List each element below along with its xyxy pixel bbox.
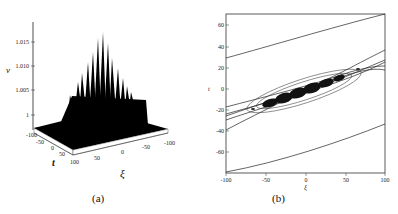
surface-plot-svg: 1.015 1.010 1.005 1 v <box>0 0 200 214</box>
y-tick-label: 20 <box>218 65 224 71</box>
y-tick-label: -60 <box>216 149 224 155</box>
x-tick-label: -100 <box>221 177 232 183</box>
y-tick-label: -20 <box>216 107 224 113</box>
panel-caption-a: (a) <box>92 192 104 204</box>
x-tick-label: 100 <box>381 177 390 183</box>
panel-a-surface-plot: 1.015 1.010 1.005 1 v <box>0 0 200 214</box>
t-tick-label: 100 <box>70 159 79 165</box>
x-tick-label: 50 <box>343 177 349 183</box>
z-tick-label: 1.010 <box>16 63 30 69</box>
x-tick-label: -50 <box>262 177 270 183</box>
xi-axis-label: ξ <box>120 167 125 180</box>
t-tick-label: 50 <box>59 151 65 157</box>
xi-tick-label: -50 <box>142 144 150 150</box>
xi-tick-label: -100 <box>164 140 175 146</box>
x-axis-label: ξ <box>304 183 307 191</box>
z-tick-label: 1.015 <box>16 39 30 45</box>
t-tick-label: 0 <box>51 145 54 151</box>
y-tick-label: -40 <box>216 128 224 134</box>
y-tick-label: 0 <box>221 86 224 92</box>
t-tick-label: -50 <box>36 139 44 145</box>
y-tick-label: 40 <box>218 44 224 50</box>
z-axis-label: v <box>6 65 10 75</box>
contour-plot-svg: 60 40 20 0 -20 -40 -60 t -100 -50 0 50 1… <box>200 0 398 214</box>
xi-tick-label: 50 <box>94 155 100 161</box>
z-tick-label: 1.005 <box>16 87 30 93</box>
y-tick-label: 60 <box>218 22 224 28</box>
xi-tick-label: 0 <box>121 149 124 155</box>
z-tick-label: 1 <box>26 112 29 118</box>
panel-b-contour-plot: 60 40 20 0 -20 -40 -60 t -100 -50 0 50 1… <box>200 0 398 214</box>
t-tick-label: -100 <box>26 132 37 138</box>
y-axis-label: t <box>208 86 210 92</box>
t-axis-label: t <box>52 157 56 168</box>
panel-caption-b: (b) <box>272 192 285 204</box>
